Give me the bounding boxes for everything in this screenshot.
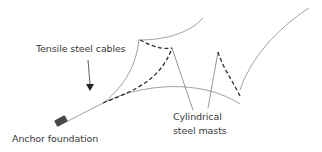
right-mast <box>208 52 218 108</box>
right-edge-cable <box>240 8 309 90</box>
masts-label-line1: Cylindrical <box>173 111 222 123</box>
anchor-foundation-icon <box>54 115 68 127</box>
cables-pointer-arrowhead <box>86 84 94 91</box>
cables-label: Tensile steel cables <box>36 43 126 55</box>
anchor-tie-cable <box>66 103 103 122</box>
masts-label-line2: steel masts <box>173 125 227 137</box>
lower-main-cable <box>103 87 240 104</box>
right-dashed-stay <box>218 52 240 96</box>
upper-edge-cable <box>140 18 203 40</box>
anchor-label: Anchor foundation <box>12 133 98 145</box>
tensile-structure-diagram <box>0 0 322 152</box>
left-dashed-stay-lower <box>103 48 172 103</box>
cables-pointer-line <box>88 60 90 84</box>
left-mast <box>172 48 193 110</box>
left-dashed-stay-upper <box>140 40 172 48</box>
